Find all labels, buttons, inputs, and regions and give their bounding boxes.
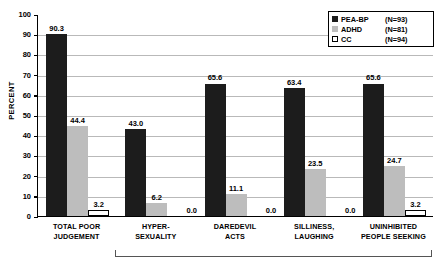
bar-value-label: 90.3	[42, 25, 72, 33]
legend-item-adhd: ADHD(N=81)	[332, 24, 430, 34]
bar-value-label: 24.7	[379, 157, 409, 165]
y-axis-tick-label: 90	[9, 31, 31, 39]
bar-value-label: 63.4	[279, 79, 309, 87]
bar-pea-bp-1	[125, 129, 146, 216]
bar-value-label: 3.2	[84, 201, 114, 209]
category-label-line: TOTAL POOR	[37, 222, 116, 232]
y-axis-tick-mark	[34, 176, 38, 177]
bar-adhd-4	[384, 166, 405, 216]
category-label-line: SILLINESS,	[275, 222, 354, 232]
y-axis-tick-mark	[34, 136, 38, 137]
y-axis-tick-mark	[34, 55, 38, 56]
category-label-line: HYPER-	[116, 222, 195, 232]
bar-adhd-1	[146, 203, 167, 216]
bar-pea-bp-0	[46, 34, 67, 216]
y-axis-tick-label: 20	[9, 173, 31, 181]
x-axis-category-label: SILLINESS,LAUGHING	[275, 222, 354, 242]
y-axis-tick-label: 0	[9, 213, 31, 221]
bar-pea-bp-2	[205, 84, 226, 217]
category-group-bracket	[115, 250, 432, 257]
bar-cc-0	[88, 210, 109, 216]
bar-value-label: 3.2	[400, 201, 430, 209]
y-axis-tick-mark	[34, 116, 38, 117]
y-axis-tick-label: 80	[9, 51, 31, 59]
bar-value-label: 0.0	[335, 207, 365, 215]
legend-series-count: (N=94)	[385, 35, 408, 44]
bar-value-label: 65.6	[358, 74, 388, 82]
legend-series-count: (N=81)	[385, 25, 408, 34]
y-axis-tick-label: 40	[9, 132, 31, 140]
y-axis-tick-mark	[34, 196, 38, 197]
category-label-line: JUDGEMENT	[37, 232, 116, 242]
category-label-line: SEXUALITY	[116, 232, 195, 242]
y-axis-tick-label: 70	[9, 72, 31, 80]
y-axis-tick-label: 100	[9, 11, 31, 19]
chart-figure: PERCENT 90.344.43.243.06.20.065.611.10.0…	[0, 0, 443, 265]
y-axis-tick-label: 60	[9, 92, 31, 100]
category-label-line: ACTS	[195, 232, 274, 242]
bar-adhd-3	[305, 169, 326, 216]
x-axis-category-label: DAREDEVILACTS	[195, 222, 274, 242]
x-axis-category-label: UNINHIBITEDPEOPLE SEEKING	[354, 222, 433, 242]
bar-value-label: 44.4	[63, 117, 93, 125]
category-label-line: UNINHIBITED	[354, 222, 433, 232]
chart-legend: PEA-BP(N=93)ADHD(N=81)CC(N=94)	[328, 11, 434, 47]
x-axis-category-label: TOTAL POORJUDGEMENT	[37, 222, 116, 242]
legend-series-name: PEA-BP	[341, 15, 385, 24]
y-axis-tick-mark	[34, 75, 38, 76]
y-axis-tick-label: 30	[9, 152, 31, 160]
legend-swatch-icon	[332, 36, 338, 42]
y-axis-tick-label: 10	[9, 193, 31, 201]
bar-pea-bp-4	[363, 84, 384, 217]
bar-value-label: 23.5	[300, 160, 330, 168]
bar-cc-4	[405, 210, 426, 216]
y-axis-tick-mark	[34, 15, 38, 16]
bar-value-label: 65.6	[200, 74, 230, 82]
bar-value-label: 0.0	[177, 207, 207, 215]
legend-item-cc: CC(N=94)	[332, 34, 430, 44]
y-axis-tick-mark	[34, 95, 38, 96]
bar-adhd-2	[226, 194, 247, 216]
legend-swatch-icon	[332, 26, 338, 32]
legend-series-name: CC	[341, 35, 385, 44]
bar-value-label: 11.1	[221, 185, 251, 193]
legend-series-count: (N=93)	[385, 15, 408, 24]
bar-value-label: 43.0	[121, 120, 151, 128]
bar-value-label: 6.2	[142, 194, 172, 202]
category-label-line: DAREDEVIL	[195, 222, 274, 232]
bar-pea-bp-3	[284, 88, 305, 216]
legend-series-name: ADHD	[341, 25, 385, 34]
y-axis-tick-label: 50	[9, 112, 31, 120]
category-label-line: LAUGHING	[275, 232, 354, 242]
x-axis-category-label: HYPER-SEXUALITY	[116, 222, 195, 242]
y-axis-tick-mark	[34, 156, 38, 157]
category-label-line: PEOPLE SEEKING	[354, 232, 433, 242]
y-axis-tick-mark	[34, 35, 38, 36]
legend-swatch-icon	[332, 16, 338, 22]
legend-item-pea-bp: PEA-BP(N=93)	[332, 14, 430, 24]
bar-value-label: 0.0	[256, 207, 286, 215]
y-axis-tick-mark	[34, 217, 38, 218]
gridline	[38, 55, 433, 56]
